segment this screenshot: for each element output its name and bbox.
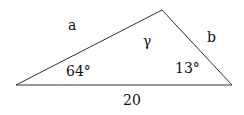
side-label-a: a [68,17,76,33]
angle-label-left: 64° [66,63,91,79]
side-label-b: b [207,29,216,45]
angle-label-right: 13° [175,60,200,76]
triangle-diagram: a b 20 64° 13° γ [0,0,244,115]
angle-label-apex: γ [143,33,151,49]
side-label-base: 20 [123,92,141,108]
